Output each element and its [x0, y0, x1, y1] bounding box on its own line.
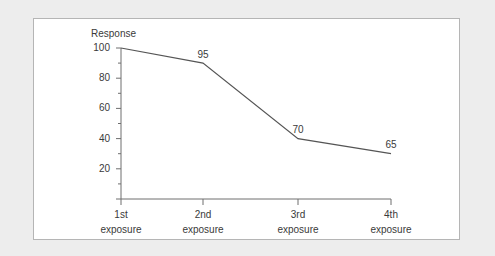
x-tick-label-3rd-exposure: 3rd exposure: [253, 207, 343, 237]
x-tick-label-3rd-line1: 3rd: [291, 209, 305, 220]
figure-root: Response 100 80 60 40 20 95 70 65 1st ex…: [0, 0, 495, 256]
chart-plot-area: Response 100 80 60 40 20 95 70 65 1st ex…: [34, 19, 461, 241]
x-ticks: [121, 199, 391, 205]
y-tick-label-80: 80: [86, 72, 110, 83]
x-tick-label-4th-exposure: 4th exposure: [346, 207, 436, 237]
response-series-line: [121, 48, 391, 154]
x-tick-label-2nd-exposure: 2nd exposure: [158, 207, 248, 237]
chart-panel: Response 100 80 60 40 20 95 70 65 1st ex…: [33, 18, 460, 240]
data-label-65: 65: [376, 139, 406, 150]
x-tick-label-2nd-line1: 2nd: [195, 209, 212, 220]
y-tick-label-20: 20: [86, 163, 110, 174]
x-tick-label-4th-line2: exposure: [346, 222, 436, 237]
x-tick-label-4th-line1: 4th: [384, 209, 398, 220]
x-tick-label-2nd-line2: exposure: [158, 222, 248, 237]
data-label-70: 70: [283, 124, 313, 135]
y-tick-label-60: 60: [86, 102, 110, 113]
x-tick-label-1st-exposure: 1st exposure: [76, 207, 166, 237]
y-tick-label-100: 100: [86, 42, 110, 53]
x-tick-label-1st-line1: 1st: [114, 209, 127, 220]
y-tick-label-40: 40: [86, 133, 110, 144]
data-label-95: 95: [188, 49, 218, 60]
x-tick-label-3rd-line2: exposure: [253, 222, 343, 237]
y-axis-title: Response: [91, 28, 136, 39]
x-tick-label-1st-line2: exposure: [76, 222, 166, 237]
